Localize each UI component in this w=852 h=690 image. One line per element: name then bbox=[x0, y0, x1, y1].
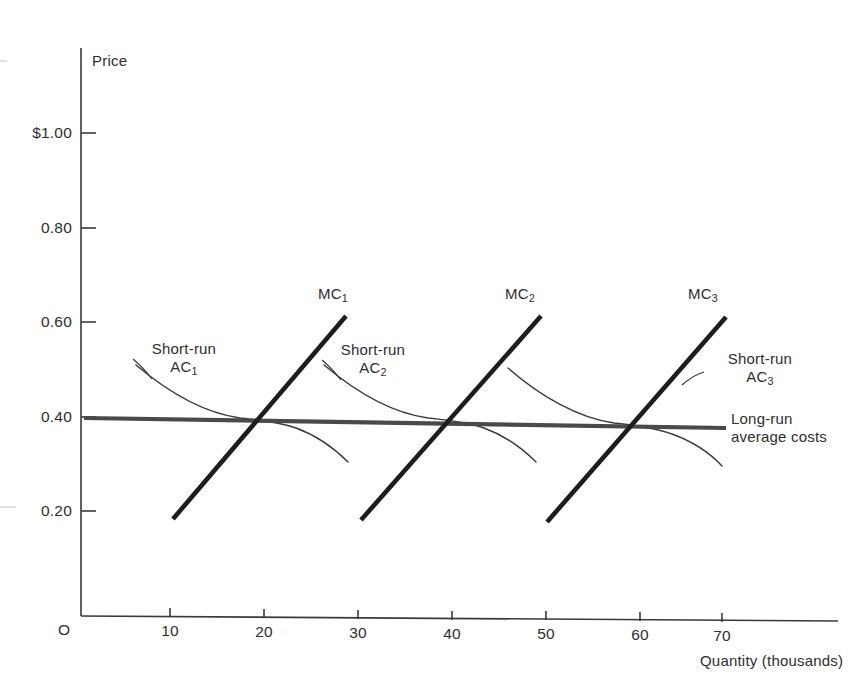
mc2-label-text: MC bbox=[505, 285, 529, 302]
lrac-label: Long-run average costs bbox=[731, 410, 827, 445]
ac3-curve bbox=[508, 368, 722, 466]
x-tick-label-20: 20 bbox=[244, 623, 284, 641]
y-tick-label-1-00: $1.00 bbox=[10, 124, 72, 142]
ac2-label: Short-run AC2 bbox=[325, 341, 421, 376]
ac2-curve bbox=[324, 365, 536, 462]
mc1-label-text: MC bbox=[318, 285, 342, 302]
origin-label: O bbox=[58, 621, 70, 639]
short-run-average-cost-curves bbox=[136, 365, 722, 466]
x-tick-label-60: 60 bbox=[620, 626, 660, 644]
mc2-label-subscript: 2 bbox=[529, 292, 535, 304]
axis-lines bbox=[81, 48, 838, 621]
x-axis-line bbox=[81, 616, 838, 621]
ac1-label-text: AC bbox=[170, 358, 191, 375]
x-axis-title: Quantity (thousands) bbox=[700, 652, 843, 670]
mc1-label-subscript: 1 bbox=[342, 292, 348, 304]
y-axis-title: Price bbox=[92, 52, 127, 70]
y-tick-label-0-20: 0.20 bbox=[10, 502, 72, 520]
ac2-label-text: AC bbox=[359, 359, 380, 376]
mc3-label-text: MC bbox=[688, 285, 712, 302]
ac1-label-line1: Short-run bbox=[136, 340, 232, 358]
mc3-label-subscript: 3 bbox=[712, 292, 718, 304]
ac1-label: Short-run AC1 bbox=[136, 340, 232, 375]
x-tick-label-70: 70 bbox=[702, 627, 742, 645]
economics-cost-curve-figure: $1.00 0.80 0.60 0.40 0.20 10 20 30 40 50… bbox=[0, 0, 852, 690]
ac1-curve bbox=[136, 365, 348, 462]
ac3-leader-line bbox=[682, 372, 704, 385]
ac2-label-line1: Short-run bbox=[325, 341, 421, 359]
y-axis-ticks bbox=[81, 133, 96, 511]
mc3-label: MC3 bbox=[688, 285, 718, 303]
x-tick-label-50: 50 bbox=[526, 625, 566, 643]
ac2-label-subscript: 2 bbox=[381, 366, 387, 378]
mc2-label: MC2 bbox=[505, 285, 535, 303]
marginal-cost-lines bbox=[173, 316, 726, 522]
x-axis-ticks bbox=[170, 608, 722, 622]
y-tick-label-0-80: 0.80 bbox=[10, 219, 72, 237]
x-tick-label-40: 40 bbox=[432, 625, 472, 643]
x-tick-label-10: 10 bbox=[150, 622, 190, 640]
ac3-label-line1: Short-run bbox=[712, 350, 808, 368]
y-tick-label-0-40: 0.40 bbox=[10, 408, 72, 426]
ac3-label: Short-run AC3 bbox=[712, 350, 808, 385]
ac1-label-line2: AC1 bbox=[136, 358, 232, 376]
lrac-label-line1: Long-run bbox=[731, 410, 827, 428]
mc3-line bbox=[547, 317, 726, 522]
lrac-label-line2: average costs bbox=[731, 428, 827, 446]
ac1-label-subscript: 1 bbox=[192, 365, 198, 377]
plot-canvas bbox=[0, 0, 852, 690]
mc1-label: MC1 bbox=[318, 285, 348, 303]
y-tick-label-0-60: 0.60 bbox=[10, 313, 72, 331]
ac2-label-line2: AC2 bbox=[325, 359, 421, 377]
ac3-label-text: AC bbox=[746, 368, 767, 385]
x-tick-label-30: 30 bbox=[338, 624, 378, 642]
ac3-label-line2: AC3 bbox=[712, 368, 808, 386]
ac3-label-subscript: 3 bbox=[768, 375, 774, 387]
